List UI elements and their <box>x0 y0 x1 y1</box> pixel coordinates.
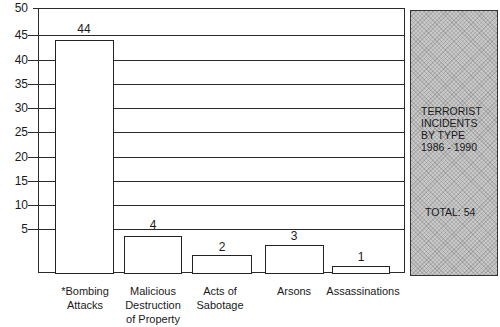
value-label-bombing: 44 <box>64 22 104 36</box>
value-label-arsons: 3 <box>274 229 314 243</box>
bar-assassinations <box>332 266 390 274</box>
y-tick-40: 40 <box>2 54 28 66</box>
bar-arsons <box>265 245 324 274</box>
summary-total: TOTAL: 54 <box>425 206 475 218</box>
y-tick-5: 5 <box>2 223 28 235</box>
x-label-arsons: Arsons <box>259 284 329 298</box>
x-label-assassinations: Assassinations <box>320 284 406 298</box>
bar-acts-of-sabotage <box>192 255 252 274</box>
value-label-assassinations: 1 <box>341 250 381 264</box>
y-tick-30: 30 <box>2 102 28 114</box>
y-tick-45: 45 <box>2 29 28 41</box>
summary-title: TERRORIST INCIDENTS BY TYPE 1986 - 1990 <box>421 105 496 153</box>
x-label-malicious: Malicious Destruction of Property <box>118 284 188 326</box>
y-tick-35: 35 <box>2 78 28 90</box>
summary-box: TERRORIST INCIDENTS BY TYPE 1986 - 1990 … <box>410 10 498 276</box>
y-tick-20: 20 <box>2 151 28 163</box>
bar-malicious-destruction <box>124 236 182 274</box>
y-tick-25: 25 <box>2 126 28 138</box>
x-label-sabotage: Acts of Sabotage <box>185 284 255 312</box>
y-tick-15: 15 <box>2 175 28 187</box>
bar-bombing-attacks <box>55 40 114 274</box>
y-tick-10: 10 <box>2 199 28 211</box>
y-tick-50: 50 <box>2 2 28 14</box>
value-label-sabotage: 2 <box>202 240 242 254</box>
x-label-bombing: *Bombing Attacks <box>50 284 120 312</box>
value-label-malicious: 4 <box>133 218 173 232</box>
